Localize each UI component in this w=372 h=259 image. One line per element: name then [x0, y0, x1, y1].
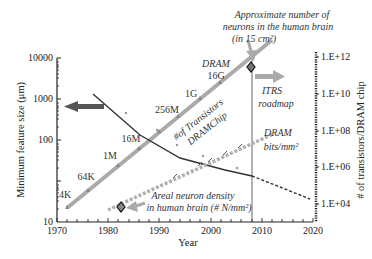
itrs-right-arrow-icon — [255, 70, 285, 83]
y-left-tick-1000: 1000 — [33, 93, 53, 104]
y-right-tick-1e06: 1.E+06 — [321, 161, 350, 172]
gen-256m-label: 256M — [155, 104, 179, 115]
right-axis: 1.E+12 1.E+10 1.E+08 1.E+06 1.E+04 # of … — [316, 51, 366, 222]
y-right-axis-title: # of transistors/DRAM chip — [355, 81, 366, 199]
gen-1g-label: 1G — [185, 88, 197, 99]
itrs-label-line2: roadmap — [258, 98, 294, 109]
chart: 10000 1000 100 10 Minimum feature size (… — [0, 0, 372, 259]
y-right-tick-1e08: 1.E+08 — [321, 125, 350, 136]
gen-4k-label: 4K — [59, 189, 72, 200]
x-tick-2000: 2000 — [201, 225, 221, 236]
y-right-tick-1e10: 1.E+10 — [321, 88, 350, 99]
x-tick-1970: 1970 — [47, 225, 67, 236]
y-left-tick-10000: 10000 — [28, 52, 53, 63]
gen-16m-label: 16M — [122, 133, 141, 144]
series-transistors-per-chip — [65, 40, 272, 209]
x-axis-title: Year — [178, 237, 198, 248]
dram-bits-label-line2: bits/mm² — [264, 141, 300, 152]
x-axis: 1970 1980 1990 2000 2010 2020 Year — [47, 218, 323, 248]
neuron-count-note-line2: neurons in the human brain — [223, 21, 334, 32]
x-tick-1980: 1980 — [98, 225, 118, 236]
areal-density-label-line2: in human brain (# N/mm²) — [146, 202, 252, 214]
x-tick-2010: 2010 — [252, 225, 272, 236]
y-right-tick-1e04: 1.E+04 — [321, 198, 350, 209]
left-axis: 10000 1000 100 10 Minimum feature size (… — [15, 52, 61, 227]
dram-bits-label-line1: DRAM — [263, 127, 292, 138]
neuron-count-diamond-icon — [247, 62, 255, 72]
x-tick-1990: 1990 — [149, 225, 169, 236]
areal-density-label-line1: Areal neuron density — [150, 190, 235, 201]
gen-16g-label: 16G — [207, 70, 224, 81]
y-right-tick-1e12: 1.E+12 — [321, 51, 350, 62]
neuron-count-note-line1: Approximate number of — [234, 9, 331, 20]
neuron-density-left-arrow-icon — [126, 201, 145, 212]
y-left-tick-100: 100 — [38, 134, 53, 145]
neuron-count-note-line3: (in 15 cm²) — [232, 33, 277, 45]
dram-label: DRAM — [201, 58, 230, 69]
itrs-label-line1: ITRS — [261, 85, 282, 96]
gen-64k-label: 64K — [77, 171, 95, 182]
x-tick-2020: 2020 — [303, 225, 323, 236]
y-left-axis-title: Minimum feature size (μm) — [15, 81, 27, 198]
gen-1m-label: 1M — [103, 150, 117, 161]
left-arrow-icon — [64, 101, 104, 112]
